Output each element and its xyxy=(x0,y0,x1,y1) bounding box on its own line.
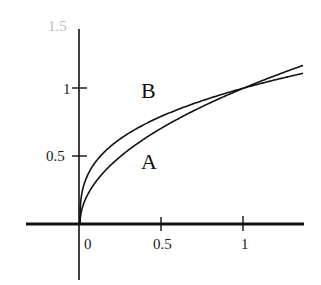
y-tick-label-05: 0.5 xyxy=(46,148,65,164)
y-tick-label-1: 1 xyxy=(63,81,71,97)
curve-label-a: A xyxy=(141,149,157,174)
x-tick-label-0: 0 xyxy=(84,236,92,252)
x-tick-label-1: 1 xyxy=(241,236,249,252)
function-plot: 0 0.5 1 0.5 1 1.5 B A xyxy=(0,0,321,285)
y-tick-label-15: 1.5 xyxy=(48,18,67,34)
curve-b-cbrt xyxy=(80,73,303,224)
curve-label-b: B xyxy=(141,78,156,103)
x-tick-label-05: 0.5 xyxy=(153,236,172,252)
